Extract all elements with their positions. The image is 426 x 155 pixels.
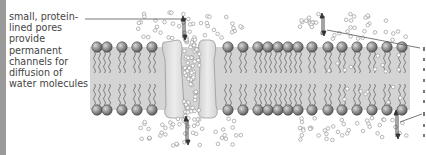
right-edge-text-fragments bbox=[423, 47, 425, 137]
bilayer-band bbox=[90, 47, 410, 110]
membrane-diagram bbox=[0, 0, 426, 155]
protein-subunit-right bbox=[198, 40, 217, 118]
